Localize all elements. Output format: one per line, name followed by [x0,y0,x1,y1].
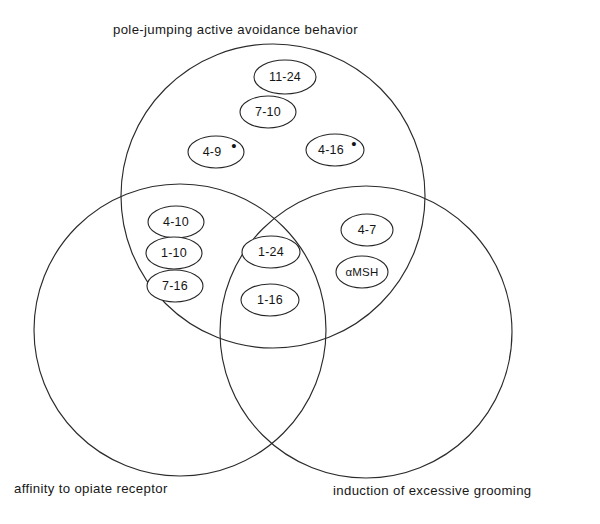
peptide-label-116: 1-16 [241,284,299,316]
set-caption-opiate-receptor: affinity to opiate receptor [14,481,168,496]
peptide-label-110: 1-10 [146,237,202,269]
label-text: 7-10 [255,105,281,119]
set-caption-excessive-grooming: induction of excessive grooming [333,483,532,498]
label-text: 4-10 [163,215,189,229]
label-text: 7-16 [162,279,188,293]
peptide-label-1124: 11-24 [254,60,316,94]
label-text: αMSH [345,266,378,278]
peptide-label-416: 4-16• [306,134,364,166]
label-text: 4-9 [203,145,222,159]
label-text: 4-16 [318,143,344,157]
label-text: 1-10 [161,246,187,260]
venn-diagram: 11-247-104-9•4-16•4-101-107-161-241-164-… [0,0,600,524]
peptide-label-MSH: αMSH [336,256,388,288]
label-text: 4-7 [358,223,377,237]
peptide-label-716: 7-16 [147,270,203,302]
peptide-label-47: 4-7 [341,214,393,246]
label-superscript-mark: • [231,137,236,154]
peptide-label-49: 4-9• [188,136,244,168]
venn-diagram-canvas: 11-247-104-9•4-16•4-101-107-161-241-164-… [0,0,600,524]
label-text: 11-24 [269,70,301,84]
peptide-label-124: 1-24 [242,236,300,268]
set-caption-pole-jumping: pole-jumping active avoidance behavior [113,22,358,37]
label-text: 1-24 [258,245,284,259]
label-text: 1-16 [257,293,283,307]
peptide-label-410: 4-10 [148,206,204,238]
label-superscript-mark: • [351,135,356,152]
peptide-label-group: 11-247-104-9•4-16•4-101-107-161-241-164-… [146,60,393,316]
peptide-label-710: 7-10 [240,96,296,128]
